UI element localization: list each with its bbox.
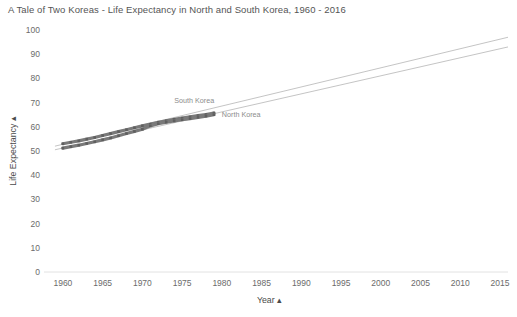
- data-point-marker[interactable]: [197, 116, 200, 119]
- y-tick-label: 70: [31, 98, 41, 108]
- data-point-marker[interactable]: [77, 140, 80, 143]
- y-tick-label: 50: [31, 146, 41, 156]
- data-point-marker[interactable]: [165, 121, 168, 124]
- data-point-marker[interactable]: [133, 130, 136, 133]
- x-tick-label: 1960: [53, 278, 72, 288]
- data-point-marker[interactable]: [70, 145, 73, 148]
- x-tick-label: 1995: [332, 278, 351, 288]
- series-label: North Korea: [222, 110, 261, 119]
- y-tick-label: 100: [26, 25, 40, 35]
- data-point-marker[interactable]: [125, 128, 128, 131]
- y-tick-label: 60: [31, 122, 41, 132]
- data-point-marker[interactable]: [93, 136, 96, 139]
- x-tick-label: 1985: [252, 278, 271, 288]
- data-point-marker[interactable]: [85, 142, 88, 145]
- y-tick-label: 10: [31, 243, 41, 253]
- data-point-marker[interactable]: [189, 117, 192, 120]
- data-point-marker[interactable]: [62, 142, 65, 145]
- data-point-marker[interactable]: [109, 137, 112, 140]
- x-tick-label: 1970: [133, 278, 152, 288]
- data-point-marker[interactable]: [157, 122, 160, 125]
- y-tick-label: 40: [31, 170, 41, 180]
- x-tick-label: 1965: [93, 278, 112, 288]
- x-tick-label: 1980: [212, 278, 231, 288]
- y-tick-label: 30: [31, 194, 41, 204]
- data-point-marker[interactable]: [133, 126, 136, 129]
- chart-container: A Tale of Two Koreas - Life Expectancy i…: [0, 0, 517, 317]
- x-tick-label: 2015: [491, 278, 510, 288]
- x-tick-label: 1975: [173, 278, 192, 288]
- x-tick-label: 2005: [411, 278, 430, 288]
- x-tick-label: 2000: [371, 278, 390, 288]
- data-point-marker[interactable]: [117, 134, 120, 137]
- data-point-marker[interactable]: [93, 141, 96, 144]
- series-label: South Korea: [174, 96, 214, 105]
- data-point-marker[interactable]: [213, 113, 216, 116]
- y-tick-label: 20: [31, 219, 41, 229]
- data-point-marker[interactable]: [101, 139, 104, 142]
- x-tick-label: 2010: [451, 278, 470, 288]
- y-tick-label: 80: [31, 73, 41, 83]
- data-point-marker[interactable]: [77, 144, 80, 147]
- data-point-marker[interactable]: [117, 130, 120, 133]
- x-tick-label: 1990: [292, 278, 311, 288]
- line-chart-plot: 0102030405060708090100196019651970197519…: [0, 0, 517, 317]
- data-point-marker[interactable]: [101, 134, 104, 137]
- data-point-marker[interactable]: [109, 132, 112, 135]
- data-point-marker[interactable]: [141, 128, 144, 131]
- data-point-marker[interactable]: [149, 125, 152, 128]
- data-point-marker[interactable]: [173, 120, 176, 123]
- data-point-marker[interactable]: [85, 138, 88, 141]
- data-point-marker[interactable]: [141, 125, 144, 128]
- data-point-marker[interactable]: [181, 118, 184, 121]
- y-axis-title[interactable]: Life Expectancy ▴: [8, 116, 18, 186]
- y-tick-label: 0: [35, 267, 40, 277]
- data-point-marker[interactable]: [70, 141, 73, 144]
- x-axis-title[interactable]: Year ▴: [257, 295, 282, 305]
- data-point-marker[interactable]: [205, 115, 208, 118]
- y-tick-label: 90: [31, 49, 41, 59]
- data-point-marker[interactable]: [62, 147, 65, 150]
- data-point-marker[interactable]: [125, 132, 128, 135]
